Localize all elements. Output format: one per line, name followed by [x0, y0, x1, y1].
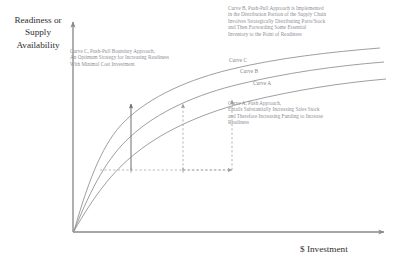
curve-b-annotation: Curve B, Push-Pull Approach is Implement…: [228, 5, 400, 37]
y-axis-title: Readiness or Supply Availability: [4, 14, 72, 51]
curve-b-line: [74, 62, 384, 231]
curve-c-label: Curve C: [229, 57, 247, 64]
curve-a-label: Curve A: [253, 80, 271, 87]
x-axis-title: $ Investment: [300, 243, 348, 255]
chart-figure: Readiness or Supply Availability $ Inves…: [0, 0, 402, 268]
curve-a-annotation: Curve A, Push Approach, Entails Substant…: [228, 100, 400, 126]
curve-c-line: [74, 48, 380, 231]
curve-b-label: Curve B: [240, 68, 258, 75]
curve-c-annotation: Curve C, Push-Pull Boundary Approach, An…: [70, 48, 220, 67]
